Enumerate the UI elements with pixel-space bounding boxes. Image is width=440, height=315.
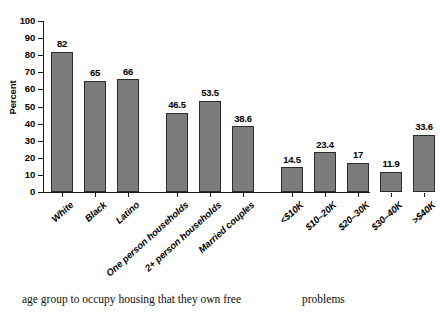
x-axis-tick [243, 193, 244, 197]
y-axis-tick-label: 80 [0, 50, 35, 60]
x-axis-tick [424, 193, 425, 197]
bar [117, 79, 139, 192]
bar-value-label: 38.6 [222, 114, 264, 124]
bar-value-label: 46.5 [156, 100, 198, 110]
y-axis-tick-label: 30 [0, 136, 35, 146]
page-body-text: age group to occupy housing that they ow… [0, 286, 374, 315]
y-axis-tick [38, 72, 43, 73]
y-axis-tick-label: 10 [0, 170, 35, 180]
y-axis-tick-label: 50 [0, 102, 35, 112]
bar-value-label: 53.5 [189, 88, 231, 98]
bar [232, 126, 254, 192]
x-axis-tick [391, 193, 392, 197]
bar-chart-figure: Percent 0102030405060708090100 82656646.… [0, 0, 374, 278]
bar [281, 167, 303, 192]
x-axis-tick [177, 193, 178, 197]
bar-value-label: 23.4 [304, 140, 346, 150]
y-axis-tick-label: 60 [0, 84, 35, 94]
plot-area: 82656646.553.538.614.523.41711.933.6 [44, 21, 370, 192]
bar-value-label: 82 [41, 39, 83, 49]
y-axis-tick [38, 175, 43, 176]
y-axis-tick-label: 20 [0, 153, 35, 163]
bar-value-label: 33.6 [403, 122, 440, 132]
y-axis-tick-label: 40 [0, 119, 35, 129]
body-text-left-column: age group to occupy housing that they ow… [22, 292, 272, 306]
x-axis-tick [95, 193, 96, 197]
y-axis-tick [38, 192, 43, 193]
bar [380, 172, 402, 192]
y-axis-tick [38, 21, 43, 22]
bar [347, 163, 369, 192]
x-axis-tick [292, 193, 293, 197]
bar [413, 135, 435, 192]
y-axis-tick [38, 107, 43, 108]
x-axis-tick [325, 193, 326, 197]
y-axis-tick [38, 89, 43, 90]
y-axis-tick [38, 124, 43, 125]
bar [51, 52, 73, 192]
x-axis-line [43, 192, 370, 193]
bar-value-label: 14.5 [271, 155, 313, 165]
bar [314, 152, 336, 192]
x-axis-tick [210, 193, 211, 197]
bar [199, 101, 221, 192]
x-axis-tick [358, 193, 359, 197]
y-axis-tick-label: 90 [0, 33, 35, 43]
bar-value-label: 66 [107, 67, 149, 77]
y-axis-tick [38, 55, 43, 56]
x-axis-tick [128, 193, 129, 197]
x-axis-tick [62, 193, 63, 197]
bar-value-label: 11.9 [370, 159, 412, 169]
y-axis-tick-label: 70 [0, 67, 35, 77]
body-text-right-column: problems [302, 292, 372, 306]
y-axis-tick [38, 141, 43, 142]
bar [84, 81, 106, 192]
y-axis-tick-label: 100 [0, 16, 35, 26]
y-axis-tick-label: 0 [0, 187, 35, 197]
bar [166, 113, 188, 193]
y-axis-tick [38, 158, 43, 159]
